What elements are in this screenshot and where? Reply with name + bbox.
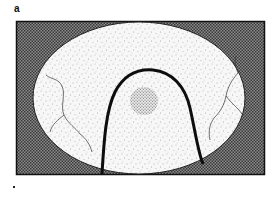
schematic-diagram [0,0,278,201]
stray-dot [13,186,15,188]
dense-dotted-region [130,87,158,115]
